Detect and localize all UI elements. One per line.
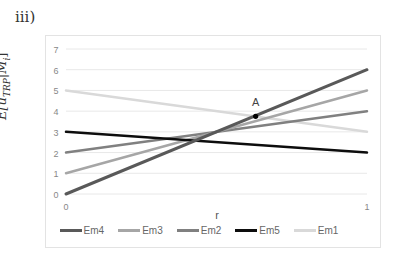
legend-swatch bbox=[118, 229, 140, 232]
legend-swatch bbox=[294, 229, 316, 232]
x-tick-label: 1 bbox=[364, 202, 369, 212]
legend-item-em2: Em2 bbox=[177, 225, 222, 236]
legend-item-em5: Em5 bbox=[235, 225, 280, 236]
y-tick-label: 0 bbox=[53, 190, 58, 200]
legend-swatch bbox=[235, 229, 257, 232]
line-chart: 0123456701rA bbox=[0, 0, 398, 261]
y-tick-label: 7 bbox=[53, 45, 58, 55]
y-tick-label: 6 bbox=[53, 66, 58, 76]
legend-swatch bbox=[177, 229, 199, 232]
legend-label: Em3 bbox=[142, 225, 163, 236]
y-tick-label: 3 bbox=[53, 128, 58, 138]
point-marker bbox=[253, 114, 258, 119]
legend-label: Em1 bbox=[318, 225, 339, 236]
legend-item-em4: Em4 bbox=[60, 225, 105, 236]
legend: Em4Em3Em2Em5Em1 bbox=[0, 225, 398, 236]
legend-swatch bbox=[60, 229, 82, 232]
legend-item-em3: Em3 bbox=[118, 225, 163, 236]
legend-label: Em4 bbox=[84, 225, 105, 236]
y-tick-label: 5 bbox=[53, 86, 58, 96]
y-tick-label: 4 bbox=[53, 107, 58, 117]
legend-label: Em2 bbox=[201, 225, 222, 236]
point-label: A bbox=[252, 96, 260, 108]
x-axis-label: r bbox=[215, 209, 219, 221]
legend-item-em1: Em1 bbox=[294, 225, 339, 236]
legend-label: Em5 bbox=[259, 225, 280, 236]
series-line-em5 bbox=[66, 132, 367, 153]
y-tick-label: 1 bbox=[53, 169, 58, 179]
y-tick-label: 2 bbox=[53, 149, 58, 159]
x-tick-label: 0 bbox=[63, 202, 68, 212]
